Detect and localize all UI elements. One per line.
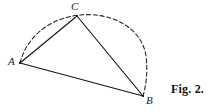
vertex-label-b: B — [146, 95, 153, 106]
segment-c-b — [77, 16, 143, 96]
vertex-label-a: A — [8, 56, 15, 67]
figure-caption: Fig. 2. — [171, 83, 204, 96]
segment-a-c — [20, 16, 77, 63]
vertex-label-c: C — [71, 1, 78, 12]
segment-a-b — [20, 63, 143, 96]
vertex-point-a — [19, 62, 21, 64]
dashed-arc-acb — [20, 15, 147, 96]
vertex-point-c — [76, 15, 78, 17]
vertex-point-b — [142, 95, 144, 97]
figure-container: A B C Fig. 2. — [0, 0, 218, 112]
